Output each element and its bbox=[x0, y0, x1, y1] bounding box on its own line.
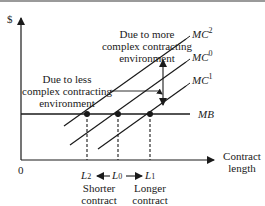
point-l0 bbox=[115, 111, 121, 117]
more-complex-annotation: Due to more complex contracting environm… bbox=[97, 28, 197, 64]
point-l1 bbox=[147, 111, 153, 117]
mb-label: MB bbox=[198, 108, 214, 120]
point-l2 bbox=[84, 111, 90, 117]
l0-label: L0 bbox=[112, 169, 122, 181]
less-complex-annotation: Due to less complex contracting environm… bbox=[22, 73, 112, 109]
shorter-contract-label: Shorter contract bbox=[76, 182, 122, 206]
longer-contract-label: Longer contract bbox=[127, 182, 173, 206]
l1-label: L1 bbox=[145, 169, 155, 181]
mc1-label: MC1 bbox=[192, 74, 213, 86]
less-complex-leader bbox=[110, 91, 162, 94]
origin-label: 0 bbox=[18, 164, 24, 176]
y-axis-label: $ bbox=[7, 13, 13, 25]
x-axis-label: Contract length bbox=[219, 150, 265, 174]
l2-label: L2 bbox=[81, 169, 91, 181]
